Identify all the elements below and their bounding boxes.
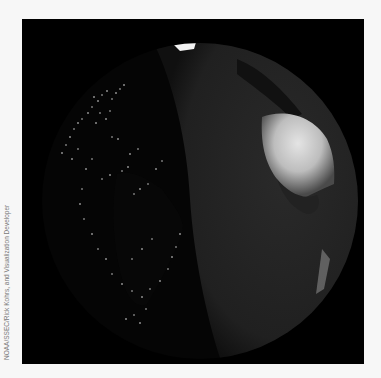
globe-graphic [22,19,364,364]
earth-image [22,19,364,364]
photo-credit: NOAA/SSEC/Rick Kohrs, and Visualization … [3,205,10,360]
